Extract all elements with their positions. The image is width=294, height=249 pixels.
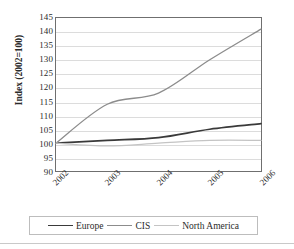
series-lines: [56, 18, 261, 171]
y-axis-tick-labels: 1451401351301251201151101051009590: [26, 17, 53, 172]
x-axis-tick-labels: 20022003200420052006: [55, 174, 262, 210]
footer-divider: [0, 243, 294, 244]
y-axis-title: Index (2002=100): [14, 0, 24, 145]
legend-item-cis[interactable]: CIS: [107, 221, 150, 231]
legend-label: North America: [182, 221, 239, 231]
legend-label: CIS: [135, 221, 150, 231]
y-axis-tick: 110: [40, 111, 53, 120]
y-axis-tick: 120: [39, 83, 53, 92]
y-axis-tick: 105: [39, 125, 53, 134]
y-axis-tick: 115: [40, 97, 53, 106]
legend-swatch: [154, 225, 179, 226]
legend-item-europe[interactable]: Europe: [48, 221, 103, 231]
y-axis-tick: 95: [44, 153, 53, 162]
plot-area: [55, 17, 262, 172]
y-axis-tick: 125: [39, 69, 53, 78]
chart-figure: Index (2002=100) 14514013513012512011511…: [0, 0, 294, 249]
y-axis-tick: 130: [39, 55, 53, 64]
y-axis-tick: 145: [39, 13, 53, 22]
legend-swatch: [107, 225, 132, 226]
legend-swatch: [48, 225, 73, 226]
y-axis-tick: 135: [39, 41, 53, 50]
y-axis-tick: 100: [39, 139, 53, 148]
y-axis-tick: 90: [44, 168, 53, 177]
legend-item-north-america[interactable]: North America: [154, 221, 239, 231]
chart-legend: EuropeCISNorth America: [29, 216, 258, 235]
legend-label: Europe: [76, 221, 103, 231]
y-axis-tick: 140: [39, 27, 53, 36]
